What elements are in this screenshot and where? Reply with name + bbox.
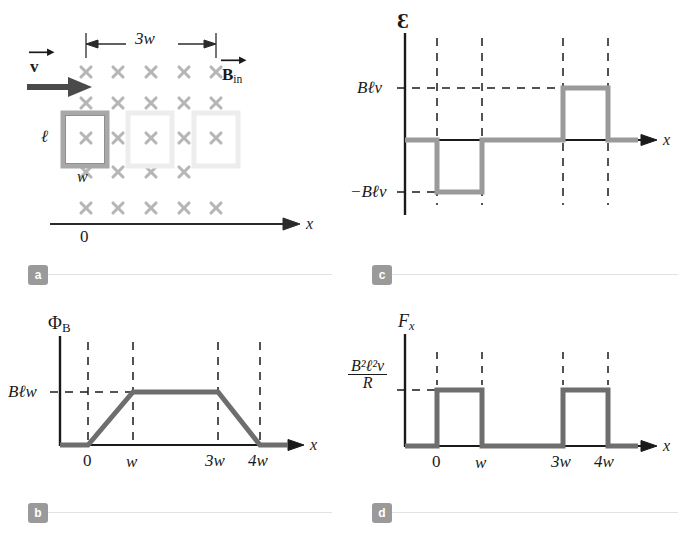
panel-b-xtick-3w: 3w	[205, 452, 225, 469]
panel-d-x-axis-label: x	[663, 438, 670, 454]
panel-b-ytick-label: Bℓw	[8, 383, 37, 400]
panel-d-rule	[388, 512, 678, 513]
force-waveform	[405, 390, 638, 446]
panel-d-xtick-w: w	[475, 454, 486, 471]
panel-b-xtick-0: 0	[83, 452, 92, 469]
panel-c-y-axis-label: Ɛ	[397, 10, 409, 32]
vector-arrow-icon	[29, 47, 55, 56]
panel-a-x-axis-label: x	[306, 216, 313, 232]
panel-c-emf-plot: Ɛ Bℓv −Bℓv x	[345, 0, 689, 255]
loop-length-label: ℓ	[41, 128, 48, 145]
velocity-arrow	[27, 77, 92, 97]
panel-d-force-plot: Fx B²ℓ²v R 0 w 3w 4w x	[345, 300, 689, 500]
panel-c-gridlines	[437, 38, 608, 205]
panel-badge-b: b	[28, 503, 48, 523]
flux-waveform	[60, 392, 288, 445]
panel-c-ytick-negative: −Bℓv	[350, 183, 386, 200]
vector-arrow-icon	[221, 55, 247, 64]
span-label-3w: 3w	[135, 30, 155, 47]
field-label: B in	[222, 66, 242, 85]
panel-b-y-subscript: B	[62, 320, 71, 335]
field-subscript: in	[233, 73, 242, 86]
velocity-label: v	[30, 58, 39, 75]
panel-d-xtick-3w: 3w	[551, 453, 571, 470]
panel-a-loop-in-field: v B in 3w ℓ w 0 x	[0, 0, 345, 255]
panel-badge-a: a	[28, 265, 48, 285]
panel-b-y-axis-label: ΦB	[48, 313, 71, 335]
fraction-denominator: R	[348, 375, 387, 391]
panel-b-xtick-w: w	[126, 453, 137, 470]
panel-a-graphic	[0, 0, 345, 255]
panel-d-y-axis-label: Fx	[398, 312, 414, 332]
panel-badge-d: d	[372, 503, 392, 523]
panel-d-xtick-0: 0	[432, 453, 441, 470]
panel-b-x-axis-label: x	[310, 437, 317, 453]
panel-d-xtick-4w: 4w	[594, 453, 614, 470]
panel-b-flux-plot: ΦB Bℓw 0 w 3w 4w x	[0, 300, 345, 500]
panel-c-rule	[388, 274, 678, 275]
panel-d-y-subscript: x	[409, 319, 414, 333]
panel-badge-c: c	[372, 265, 392, 285]
panel-d-gridlines	[437, 352, 608, 385]
panel-b-xtick-4w: 4w	[248, 452, 268, 469]
panel-b-rule	[44, 512, 332, 513]
panel-c-graphic	[345, 0, 689, 255]
fraction-numerator: B²ℓ²v	[348, 358, 387, 375]
panel-c-ytick-positive: Bℓv	[357, 79, 382, 96]
panel-a-rule	[44, 274, 332, 275]
panel-d-ytick-label: B²ℓ²v R	[348, 358, 387, 391]
panel-d-graphic	[345, 300, 689, 500]
loop-width-label: w	[77, 169, 88, 185]
magnetic-field-crosses	[81, 67, 221, 213]
panel-c-x-axis-label: x	[663, 132, 670, 148]
panel-a-origin-label: 0	[80, 228, 89, 245]
